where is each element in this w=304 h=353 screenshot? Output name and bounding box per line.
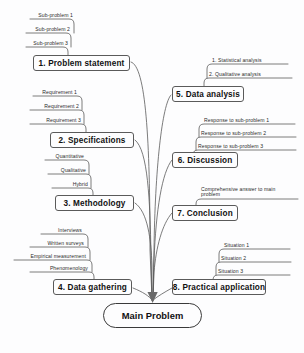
leaf-gathering-written-surveys[interactable]: Written surveys <box>28 239 87 248</box>
leaf-response-subproblem-1[interactable]: Response to sub-problem 1 <box>201 116 297 125</box>
root-arrowhead <box>148 292 158 303</box>
branch-data-gathering[interactable]: 4. Data gathering <box>53 279 132 295</box>
mindmap-canvas: Sub-problem 1 Sub-problem 2 Sub-problem … <box>0 0 304 353</box>
leaf-response-subproblem-3[interactable]: Response to sub-problem 3 <box>195 142 295 151</box>
leaf-gathering-interviews[interactable]: Interviews <box>38 226 85 235</box>
trunk-conclusion <box>153 213 172 300</box>
leaf-situation-3[interactable]: Situation 3 <box>215 267 263 276</box>
root-node-main-problem[interactable]: Main Problem <box>103 303 202 328</box>
branch-conclusion[interactable]: 7. Conclusion <box>172 205 238 221</box>
branch-specifications[interactable]: 2. Specifications <box>50 132 134 148</box>
trunk-methodology <box>135 203 152 300</box>
trunk-problem-statement <box>131 62 152 300</box>
trunk-data-analysis <box>153 95 171 300</box>
branch-discussion[interactable]: 6. Discussion <box>172 152 238 168</box>
leaf-gathering-phenomenology[interactable]: Phenomenology <box>28 264 91 273</box>
branch-problem-statement[interactable]: 1. Problem statement <box>33 55 130 71</box>
branch-data-analysis[interactable]: 5. Data analysis <box>172 86 244 102</box>
leaf-response-subproblem-2[interactable]: Response to sub-problem 2 <box>198 129 296 138</box>
leaf-requirement-3[interactable]: Requirement 3 <box>28 116 84 125</box>
trunk-discussion <box>153 160 172 300</box>
trunk-practical-application <box>153 288 172 300</box>
connector-layer <box>0 0 304 353</box>
leaf-subproblem-1[interactable]: Sub-problem 1 <box>24 11 76 20</box>
branch-practical-application[interactable]: 8. Practical application <box>172 279 266 295</box>
trunk-data-gathering <box>133 288 152 300</box>
leaf-qualitative-analysis[interactable]: 2. Qualitative analysis <box>206 70 292 79</box>
leaf-methodology-hybrid[interactable]: Hybrid <box>50 180 91 189</box>
leaf-comprehensive-answer[interactable]: Comprehensive answer to main problem <box>198 186 282 198</box>
leaf-subproblem-3[interactable]: Sub-problem 3 <box>21 39 71 48</box>
branch-methodology[interactable]: 3. Methodology <box>55 195 134 211</box>
leaf-statistical-analysis[interactable]: 1. Statistical analysis <box>209 56 291 65</box>
leaf-subproblem-2[interactable]: Sub-problem 2 <box>21 25 73 34</box>
leaf-situation-1[interactable]: Situation 1 <box>221 241 269 250</box>
leaf-methodology-quantitative[interactable]: Quantitative <box>40 152 87 161</box>
leaf-methodology-qualitative[interactable]: Qualitative <box>44 166 89 175</box>
leaf-requirement-1[interactable]: Requirement 1 <box>28 88 80 97</box>
leaf-requirement-2[interactable]: Requirement 2 <box>28 102 82 111</box>
trunk-specifications <box>135 140 152 300</box>
leaf-situation-2[interactable]: Situation 2 <box>218 254 266 263</box>
leaf-gathering-empirical-measurement[interactable]: Empirical measurement <box>10 252 89 261</box>
